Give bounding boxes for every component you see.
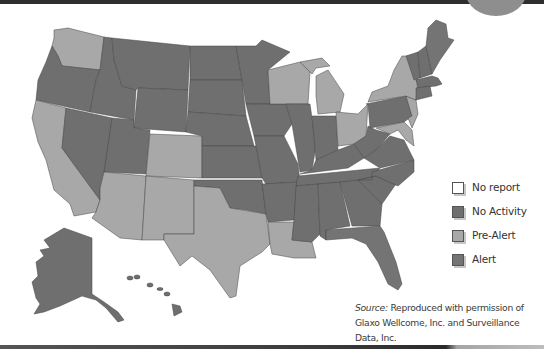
- legend-item-no-activity: No Activity: [452, 199, 527, 223]
- state-arkansas: [262, 182, 298, 222]
- source-line-1: Reproduced with permission of: [388, 302, 524, 313]
- legend-label: No Activity: [472, 205, 527, 217]
- state-kansas: [202, 146, 262, 178]
- state-florida: [326, 226, 402, 290]
- state-alaska: [32, 228, 124, 322]
- legend-item-alert: Alert: [452, 247, 527, 271]
- state-montana: [112, 38, 190, 90]
- state-iowa: [246, 104, 292, 136]
- state-wisconsin: [268, 62, 310, 104]
- state-mississippi: [292, 184, 320, 242]
- pre-alert-swatch: [452, 230, 464, 242]
- legend-label: Alert: [472, 253, 496, 265]
- legend-item-no-report: No report: [452, 175, 527, 199]
- legend-label: Pre-Alert: [472, 229, 515, 241]
- source-prefix: Source:: [355, 302, 388, 313]
- no-report-swatch: [452, 182, 464, 194]
- state-north-dakota: [190, 46, 242, 80]
- bottom-border-bar: [0, 345, 544, 349]
- legend-item-pre-alert: Pre-Alert: [452, 223, 527, 247]
- state-maine: [426, 20, 454, 74]
- legend-label: No report: [472, 181, 520, 193]
- state-new-mexico: [142, 176, 194, 240]
- source-line-2: Glaxo Wellcome, Inc. and Surveillance Da…: [355, 315, 544, 345]
- state-hawaii: [127, 275, 182, 316]
- source-note: Source: Reproduced with permission of Gl…: [355, 300, 544, 345]
- alert-swatch: [452, 254, 464, 266]
- no-activity-swatch: [452, 206, 464, 218]
- state-connecticut: [416, 86, 432, 100]
- map-legend: No report No Activity Pre-Alert Alert: [452, 175, 527, 271]
- state-south-dakota: [188, 80, 246, 116]
- state-colorado: [146, 134, 202, 178]
- state-wyoming: [134, 88, 188, 132]
